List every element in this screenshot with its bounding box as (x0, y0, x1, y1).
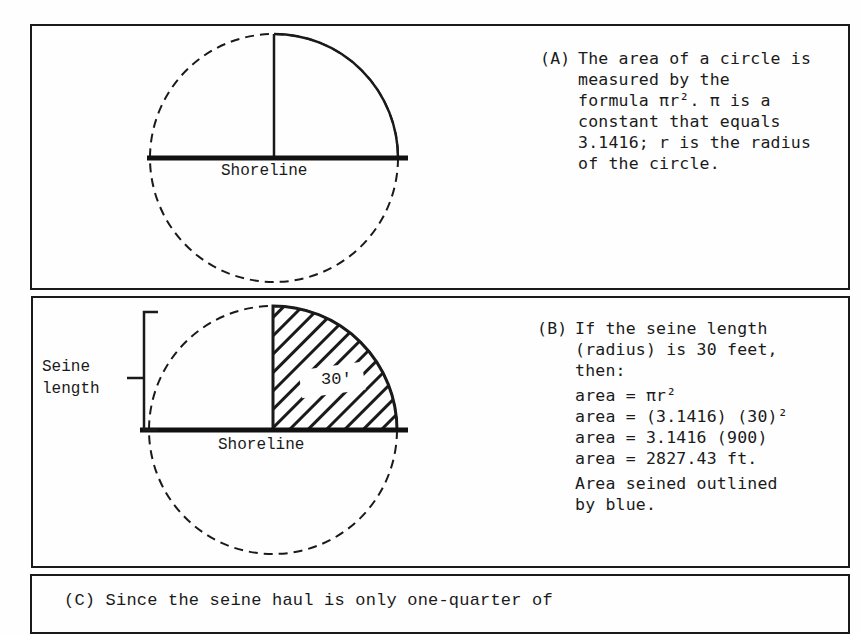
panel-b-intro-line: then: (575, 360, 788, 381)
shoreline-label-b: Shoreline (218, 436, 304, 454)
note-line: by blue. (575, 494, 788, 515)
radius-label: 30′ (321, 370, 352, 389)
seine-length-label: Seine length (42, 356, 100, 400)
note-line: Area seined outlined (575, 473, 788, 494)
equation-line: area = (3.1416) (30)² (575, 406, 788, 427)
seine-length-label-line: length (42, 378, 100, 400)
equation-line: area = 3.1416 (900) (575, 427, 788, 448)
panel-b-tag: (B) (537, 318, 575, 515)
panel-b-intro-line: (radius) is 30 feet, (575, 339, 788, 360)
panel-b-text: (B) If the seine length (radius) is 30 f… (537, 318, 788, 515)
panel-c-text: (C) Since the seine haul is only one-qua… (64, 590, 553, 611)
panel-b-intro-line: If the seine length (575, 318, 788, 339)
equation-line: area = πr² (575, 385, 788, 406)
equation-line: area = 2827.43 ft. (575, 448, 788, 469)
seine-length-label-line: Seine (42, 356, 100, 378)
